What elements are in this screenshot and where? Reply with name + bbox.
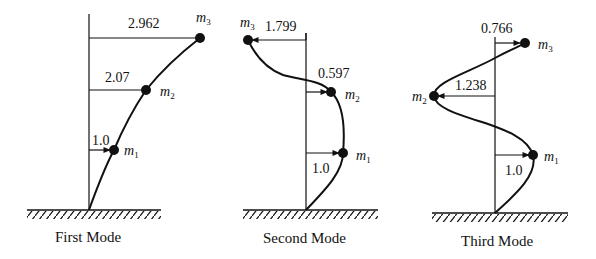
first-mode-m2-label: m2	[160, 84, 175, 101]
third-mode-m1-dot	[528, 150, 538, 160]
second-mode-m3-dot	[243, 35, 253, 45]
second-mode-m1-dot	[338, 148, 348, 158]
second-mode-m3-value: 1.799	[265, 19, 297, 34]
second-mode-m2-dot	[326, 87, 336, 97]
first-mode-m3-dot	[195, 33, 205, 43]
first-mode-m2-dot	[141, 85, 151, 95]
second-mode-m2-value: 0.597	[318, 66, 350, 81]
mode-shapes-figure: 2.962 2.07 1.0 m3 m2 m1 First Mode 1.799…	[0, 0, 596, 259]
third-mode-caption: Third Mode	[461, 233, 533, 249]
third-mode-m1-value: 1.0	[505, 163, 523, 178]
third-mode-m2-dot	[429, 91, 439, 101]
first-mode-m3-value: 2.962	[128, 16, 160, 31]
second-mode-caption: Second Mode	[263, 230, 346, 246]
third-mode-diagram: 0.766 1.238 1.0 m3 m2 m1 Third Mode	[412, 21, 568, 249]
second-mode-m1-label: m1	[356, 148, 371, 165]
second-mode-m2-label: m2	[345, 87, 360, 104]
third-mode-m1-label: m1	[544, 149, 559, 166]
second-mode-m1-value: 1.0	[312, 161, 330, 176]
third-mode-ground-hatch	[432, 214, 568, 222]
first-mode-m1-value: 1.0	[92, 133, 110, 148]
third-mode-m3-dot	[520, 38, 530, 48]
first-mode-m2-value: 2.07	[105, 70, 130, 85]
third-mode-m2-value: 1.238	[455, 78, 487, 93]
first-mode-caption: First Mode	[55, 229, 122, 245]
third-mode-m3-label: m3	[538, 37, 553, 54]
first-mode-ground-hatch	[27, 211, 161, 219]
first-mode-m3-label: m3	[196, 10, 211, 27]
third-mode-shape-curve	[434, 43, 534, 213]
first-mode-diagram: 2.962 2.07 1.0 m3 m2 m1 First Mode	[27, 10, 211, 245]
second-mode-diagram: 1.799 0.597 1.0 m3 m2 m1 Second Mode	[240, 15, 378, 246]
first-mode-shape-curve	[89, 38, 200, 210]
first-mode-m1-label: m1	[124, 143, 139, 160]
first-mode-m1-dot	[109, 145, 119, 155]
third-mode-m2-label: m2	[412, 89, 427, 106]
second-mode-ground-hatch	[243, 211, 378, 219]
third-mode-m3-value: 0.766	[481, 21, 513, 36]
second-mode-m3-label: m3	[240, 15, 255, 32]
